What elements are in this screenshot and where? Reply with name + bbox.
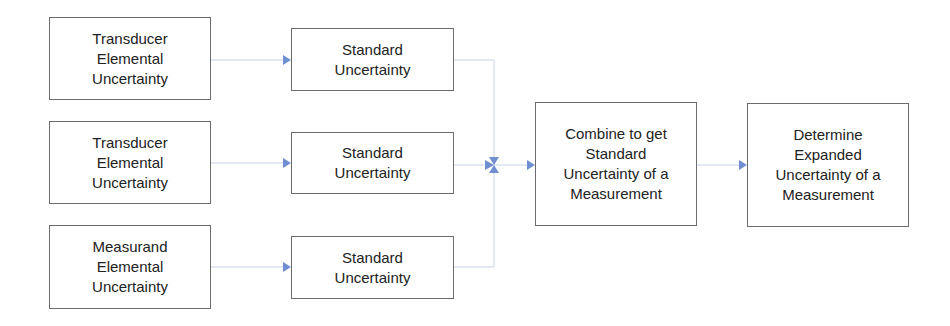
standard-uncertainty-box-1: Standard Uncertainty <box>291 28 454 91</box>
combine-box: Combine to get Standard Uncertainty of a… <box>535 102 697 226</box>
standard-label: Standard Uncertainty <box>335 143 411 183</box>
standard-uncertainty-box-2: Standard Uncertainty <box>291 132 454 194</box>
source-label: Measurand Elemental Uncertainty <box>92 237 168 297</box>
arrowhead-icon <box>739 160 747 170</box>
standard-label: Standard Uncertainty <box>335 248 411 288</box>
arrowhead-icon <box>283 55 291 65</box>
source-box-transducer-2: Transducer Elemental Uncertainty <box>49 121 211 204</box>
standard-label: Standard Uncertainty <box>335 40 411 80</box>
arrowhead-icon <box>283 158 291 168</box>
arrowhead-icon <box>283 262 291 272</box>
source-box-transducer-1: Transducer Elemental Uncertainty <box>49 17 211 100</box>
expanded-uncertainty-box: Determine Expanded Uncertainty of a Meas… <box>747 103 909 227</box>
source-box-measurand: Measurand Elemental Uncertainty <box>49 225 211 309</box>
arrowhead-icon <box>527 160 535 170</box>
uncertainty-flow-diagram: Transducer Elemental Uncertainty Transdu… <box>0 0 950 326</box>
source-label: Transducer Elemental Uncertainty <box>92 133 168 193</box>
source-label: Transducer Elemental Uncertainty <box>92 29 168 89</box>
expanded-label: Determine Expanded Uncertainty of a Meas… <box>775 125 880 205</box>
standard-uncertainty-box-3: Standard Uncertainty <box>291 236 454 299</box>
combine-label: Combine to get Standard Uncertainty of a… <box>563 124 668 204</box>
